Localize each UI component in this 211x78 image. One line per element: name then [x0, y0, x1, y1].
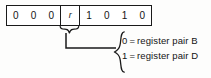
bit-value: 1 [86, 11, 92, 21]
leader-line-icon [62, 33, 116, 51]
legend-item-1: 1=register pair D [122, 48, 211, 63]
bit-cell-2: 0 [42, 6, 60, 25]
bit-cell-0: 0 [7, 6, 25, 25]
bit-value: 0 [31, 11, 37, 21]
bit-value: 0 [139, 11, 145, 21]
bit-cell-r-field: r [60, 6, 80, 25]
bit-value: 0 [104, 11, 110, 21]
bit-field-box: 0 0 0 r 1 0 1 0 [6, 5, 152, 26]
bit-value: 0 [49, 11, 55, 21]
bit-value: r [69, 11, 72, 20]
legend-description: register pair D [137, 50, 198, 61]
legend-description: register pair B [137, 35, 198, 46]
bit-cell-7: 0 [133, 6, 151, 25]
legend-list: 0=register pair B 1=register pair D [122, 33, 211, 63]
legend-equals: = [127, 35, 137, 46]
bit-field-diagram: 0 0 0 r 1 0 1 0 0 [0, 0, 211, 78]
bit-value: 0 [13, 11, 19, 21]
legend-item-0: 0=register pair B [122, 33, 211, 48]
bit-cell-4: 1 [80, 6, 98, 25]
legend-equals: = [127, 50, 137, 61]
bit-cell-5: 0 [98, 6, 116, 25]
bit-cell-1: 0 [25, 6, 43, 25]
bit-cell-6: 1 [116, 6, 134, 25]
bit-value: 1 [122, 11, 128, 21]
